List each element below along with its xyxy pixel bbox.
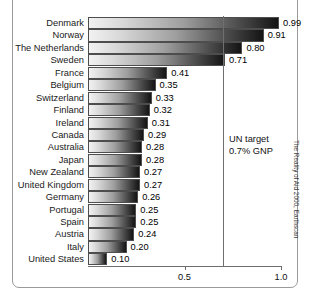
category-label: Japan (59, 155, 84, 165)
value-label: 0.26 (138, 192, 160, 202)
bar (88, 104, 150, 116)
un-target-line2: 0.7% GNP (229, 146, 273, 158)
bar-row: New Zealand0.27 (88, 166, 281, 178)
category-label: Germany (46, 192, 84, 202)
value-label: 0.71 (225, 55, 247, 65)
category-label: Denmark (46, 18, 84, 28)
category-label: Portugal (49, 205, 84, 215)
bar (88, 79, 156, 91)
value-label: 0.25 (136, 217, 158, 227)
category-label: Switzerland (36, 93, 84, 103)
bar-row: United States0.10 (88, 253, 281, 265)
bar (88, 191, 138, 203)
bar-row: Portugal0.25 (88, 204, 281, 216)
un-target-annotation: UN target 0.7% GNP (229, 134, 273, 157)
bar-row: Italy0.20 (88, 241, 281, 253)
value-label: 0.27 (140, 167, 162, 177)
bar (88, 204, 136, 216)
bar-row: Spain0.25 (88, 216, 281, 228)
value-label: 0.41 (167, 68, 189, 78)
value-label: 0.28 (142, 155, 164, 165)
bar (88, 166, 140, 178)
bar-row: United Kingdom0.27 (88, 179, 281, 191)
value-label: 0.91 (264, 30, 286, 40)
bar-row: Finland0.32 (88, 104, 281, 116)
bar-row: Germany0.26 (88, 191, 281, 203)
category-label: The Netherlands (15, 43, 84, 53)
bar-row: France0.41 (88, 67, 281, 79)
bar (88, 42, 242, 54)
bar (88, 17, 279, 29)
bar (88, 216, 136, 228)
value-label: 0.25 (136, 205, 158, 215)
category-label: Finland (54, 105, 85, 115)
value-label: 0.32 (150, 105, 172, 115)
x-tick-label-0.5: 0.5 (178, 272, 191, 282)
figure-title-clipped (22, 0, 262, 1)
bar-row: Ireland0.31 (88, 117, 281, 129)
source-credit: The Reality of Aid 2000, Earthscan (300, 140, 320, 152)
bar (88, 129, 144, 141)
bar (88, 67, 167, 79)
category-label: Canada (51, 130, 84, 140)
un-target-gridline (223, 16, 224, 266)
bar (88, 154, 142, 166)
category-label: Austria (55, 229, 84, 239)
category-label: Italy (67, 242, 84, 252)
category-label: Norway (52, 30, 84, 40)
x-tick-1.0 (281, 266, 282, 270)
value-label: 0.35 (156, 80, 178, 90)
category-label: Spain (60, 217, 84, 227)
category-label: United Kingdom (18, 180, 84, 190)
chart-figure: Denmark0.99Norway0.91The Netherlands0.80… (0, 0, 320, 301)
category-label: Belgium (50, 80, 84, 90)
value-label: 0.99 (279, 18, 301, 28)
value-label: 0.29 (144, 130, 166, 140)
source-credit-text: The Reality of Aid 2000, Earthscan (293, 140, 300, 290)
value-label: 0.27 (140, 180, 162, 190)
category-label: Australia (48, 142, 84, 152)
bar (88, 253, 107, 265)
bar (88, 29, 264, 41)
plot-area: Denmark0.99Norway0.91The Netherlands0.80… (88, 17, 281, 266)
bar (88, 54, 225, 66)
bar-row: Sweden0.71 (88, 54, 281, 66)
bar-row: Austria0.24 (88, 228, 281, 240)
category-label: United States (28, 254, 84, 264)
bar (88, 179, 140, 191)
category-label: France (55, 68, 84, 78)
bar-row: The Netherlands0.80 (88, 42, 281, 54)
x-tick-0.5 (185, 266, 186, 270)
value-label: 0.10 (107, 254, 129, 264)
bar-row: Belgium0.35 (88, 79, 281, 91)
bar (88, 241, 127, 253)
category-label: Sweden (50, 55, 84, 65)
un-target-line1: UN target (229, 134, 273, 146)
value-label: 0.20 (127, 242, 149, 252)
bar (88, 117, 148, 129)
bar (88, 228, 134, 240)
bar (88, 141, 142, 153)
x-tick-label-1.0: 1.0 (275, 272, 288, 282)
category-label: New Zealand (29, 167, 84, 177)
value-label: 0.31 (148, 118, 170, 128)
bar (88, 92, 152, 104)
value-label: 0.24 (134, 229, 156, 239)
bar-row: Switzerland0.33 (88, 92, 281, 104)
value-label: 0.28 (142, 142, 164, 152)
bar-row: Norway0.91 (88, 29, 281, 41)
bar-row: Denmark0.99 (88, 17, 281, 29)
category-label: Ireland (56, 118, 84, 128)
value-label: 0.33 (152, 93, 174, 103)
value-label: 0.80 (242, 43, 264, 53)
